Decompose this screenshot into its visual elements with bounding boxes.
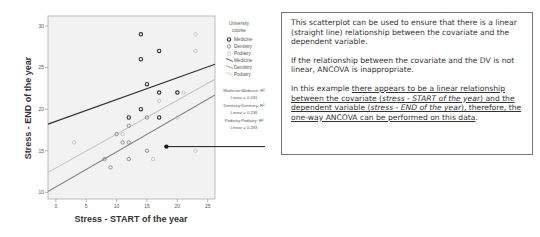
- explanation-box: This scatterplot can be used to ensure t…: [281, 12, 533, 155]
- svg-text:15: 15: [144, 203, 150, 209]
- legend-label: Dentistry: [234, 65, 253, 70]
- legend-marker-icon: [227, 45, 230, 48]
- svg-text:10: 10: [114, 203, 120, 209]
- explanation-para-1: This scatterplot can be used to ensure t…: [291, 18, 526, 47]
- plot-area: [48, 16, 215, 199]
- r2-label-title: Podiatry;Podiatry: R²: [225, 118, 264, 123]
- svg-text:25: 25: [205, 203, 211, 209]
- svg-text:10: 10: [38, 189, 44, 195]
- explanation-para-3: In this example there appears to be a li…: [291, 84, 526, 122]
- r2-labels: Medicine;Medicine: R²Linear = 0.031Denti…: [223, 88, 265, 130]
- annotation-dot-icon: [164, 144, 168, 148]
- svg-text:5: 5: [85, 203, 88, 209]
- svg-text:25: 25: [38, 64, 44, 70]
- legend-label: Dentistry: [234, 44, 253, 49]
- legend-marker-icon: [227, 38, 230, 41]
- legend-label: Podiatry: [234, 72, 252, 77]
- svg-text:20: 20: [175, 203, 181, 209]
- r2-label-title: Medicine;Medicine: R²: [223, 88, 265, 93]
- y-axis-title: Stress - END of the year: [23, 56, 33, 159]
- legend-label: Medicine: [234, 58, 253, 63]
- r2-label-value: Linear = 0.031: [231, 95, 259, 100]
- legend-label: Podiatry: [234, 51, 252, 56]
- r2-label-title: Dentistry;Dentistry: R²: [224, 103, 266, 108]
- r2-label-value: Linear = 0.293: [231, 125, 259, 130]
- svg-text:30: 30: [38, 23, 44, 29]
- legend-title-line1: University: [229, 21, 250, 26]
- legend-line-icon: [226, 66, 233, 69]
- svg-text:0: 0: [55, 203, 58, 209]
- legend: University course MedicineDentistryPodia…: [226, 21, 253, 77]
- r2-label-value: Linear = 0.236: [231, 110, 259, 115]
- legend-line-icon: [226, 73, 233, 76]
- svg-text:20: 20: [38, 106, 44, 112]
- x-axis-title: Stress - START of the year: [75, 214, 188, 224]
- svg-text:15: 15: [38, 148, 44, 154]
- legend-marker-icon: [227, 52, 230, 55]
- legend-line-icon: [226, 59, 233, 62]
- scatterplot-chart: 05101520251015202530 Stress - START of t…: [0, 0, 275, 237]
- legend-label: Medicine: [234, 37, 253, 42]
- explanation-para-2: If the relationship between the covariat…: [291, 56, 526, 75]
- legend-title-line2: course: [232, 28, 246, 33]
